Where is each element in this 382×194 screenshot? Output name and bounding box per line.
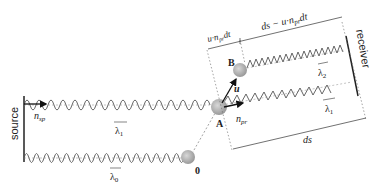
lambda2-marker bbox=[318, 62, 328, 64]
point-B-label: B bbox=[228, 57, 235, 68]
receiver-label: receiver bbox=[354, 28, 373, 69]
particle-B bbox=[233, 63, 247, 77]
n-pr-arrow-icon bbox=[224, 103, 243, 107]
wave-propagation-diagram: source nsp λ1 λ0 0 receiver A B u npr λ1… bbox=[0, 0, 382, 194]
lambda1-left-label: λ1 bbox=[115, 125, 124, 138]
receiver-bar bbox=[346, 36, 358, 96]
path-0-to-A bbox=[190, 108, 218, 157]
lambda2-label: λ2 bbox=[318, 67, 327, 80]
particle-0 bbox=[181, 150, 195, 164]
lambda0-label: λ0 bbox=[110, 171, 119, 184]
source-label: source bbox=[8, 107, 20, 140]
wave-lambda2 bbox=[247, 45, 343, 68]
projection-line-mid bbox=[240, 40, 245, 64]
u-label: u bbox=[234, 83, 240, 94]
n-sp-label: nsp bbox=[34, 110, 46, 123]
point-0-label: 0 bbox=[195, 165, 200, 176]
lambda1-right-marker bbox=[323, 98, 335, 100]
top-left-dimension-label: u·nprdt bbox=[206, 29, 232, 45]
lambda1-right-label: λ1 bbox=[325, 103, 334, 116]
point-A-label: A bbox=[216, 118, 224, 129]
n-pr-label: npr bbox=[236, 113, 248, 126]
ds-bottom-label: ds bbox=[303, 134, 312, 145]
ds-dimension-line bbox=[233, 118, 366, 149]
